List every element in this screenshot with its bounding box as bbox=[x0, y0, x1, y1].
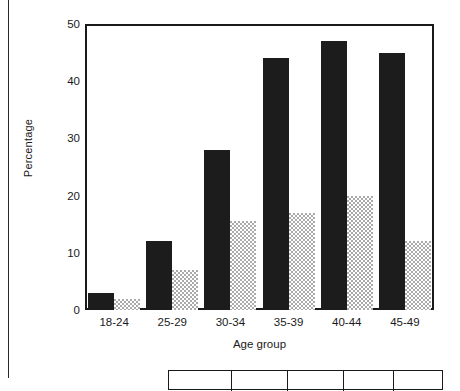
y-tick-label: 0 bbox=[54, 304, 80, 316]
bar-series-dark-18-24 bbox=[88, 293, 114, 310]
bar-group bbox=[321, 24, 373, 310]
table-column-divider bbox=[393, 371, 394, 391]
table-column-divider bbox=[231, 371, 232, 391]
y-tick-label: 40 bbox=[54, 75, 80, 87]
bar-group bbox=[204, 24, 256, 310]
bars-layer bbox=[85, 24, 434, 310]
bar-series-light-25-29 bbox=[172, 270, 198, 310]
y-tick-label: 20 bbox=[54, 190, 80, 202]
bottom-table-fragment bbox=[168, 370, 443, 390]
bar-series-dark-45-49 bbox=[379, 53, 405, 310]
bar-series-light-35-39 bbox=[289, 213, 315, 310]
bar-series-light-18-24 bbox=[114, 299, 140, 310]
bar-series-light-45-49 bbox=[405, 241, 431, 310]
bar-group bbox=[146, 24, 198, 310]
table-column-divider bbox=[287, 371, 288, 391]
y-tick-label: 30 bbox=[54, 132, 80, 144]
y-axis-tick-labels: 01020304050 bbox=[52, 24, 80, 310]
bar-group bbox=[88, 24, 140, 310]
bar-series-dark-30-34 bbox=[204, 150, 230, 310]
bar-series-dark-40-44 bbox=[321, 41, 347, 310]
y-tick-label: 50 bbox=[54, 18, 80, 30]
x-axis-title: Age group bbox=[85, 338, 434, 350]
bar-series-dark-25-29 bbox=[146, 241, 172, 310]
bar-series-light-40-44 bbox=[347, 196, 373, 310]
bar-group bbox=[263, 24, 315, 310]
y-tick-label: 10 bbox=[54, 247, 80, 259]
bar-group bbox=[379, 24, 431, 310]
y-axis-title: Percentage bbox=[22, 98, 34, 198]
table-column-divider bbox=[343, 371, 344, 391]
bar-series-dark-35-39 bbox=[263, 58, 289, 310]
x-axis-tick-labels: 18-2425-2930-3435-3940-4445-49 bbox=[85, 316, 434, 334]
x-tick-label: 45-49 bbox=[370, 316, 440, 328]
bar-series-light-30-34 bbox=[230, 221, 256, 310]
